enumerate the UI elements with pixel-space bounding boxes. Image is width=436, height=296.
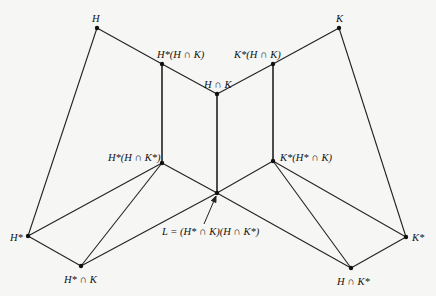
node-HsHK	[160, 62, 164, 66]
annotation-label-L: L = (H* ∩ K)(H ∩ K*)	[162, 227, 259, 238]
edge-H-HsHK	[97, 28, 162, 64]
node-KsHK	[271, 62, 275, 66]
edge-Hs-HsK	[28, 236, 81, 266]
node-H	[95, 26, 99, 30]
node-KsHsK	[271, 159, 275, 163]
node-label-HsK: H* ∩ K	[64, 275, 97, 286]
node-label-KsHK: K*(H ∩ K)	[234, 50, 281, 61]
node-label-KsHsK: K*(H* ∩ K)	[280, 153, 332, 164]
edge-H-Hs	[28, 28, 97, 236]
node-HsK	[79, 264, 83, 268]
node-label-HKs: H ∩ K*	[337, 277, 370, 288]
arrowhead-icon	[211, 196, 216, 202]
node-HK	[215, 92, 219, 96]
edge-KsHK-K	[273, 28, 339, 64]
node-label-K: K	[336, 14, 343, 25]
edge-HsHKs-HsK	[81, 163, 162, 266]
edge-KsHsK-HKs	[273, 161, 351, 268]
node-label-Ks: K*	[412, 233, 424, 244]
node-label-HsHKs: H*(H ∩ K*)	[108, 153, 161, 164]
node-K	[337, 26, 341, 30]
edge-Ks-HKs	[351, 237, 406, 268]
edge-HsHKs-L	[162, 163, 217, 193]
node-Hs	[26, 234, 30, 238]
edge-L-KsHsK	[217, 161, 273, 193]
node-label-HK: H ∩ K	[204, 80, 231, 91]
edge-KsHsK-Ks	[273, 161, 406, 237]
node-L	[215, 191, 219, 195]
annotation-arrow	[204, 196, 216, 224]
edge-K-Ks	[339, 28, 406, 237]
node-label-H: H	[92, 14, 100, 25]
node-label-Hs: H*	[10, 233, 23, 244]
node-label-HsHK: H*(H ∩ K)	[157, 50, 204, 61]
lattice-diagram	[0, 0, 436, 296]
node-HKs	[349, 266, 353, 270]
node-Ks	[404, 235, 408, 239]
